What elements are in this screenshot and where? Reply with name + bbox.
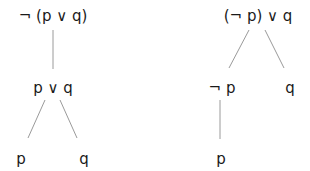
edge-or-to-p — [28, 100, 45, 138]
right-q-leaf: q — [285, 79, 295, 97]
right-root-node: (¬ p) ∨ q — [224, 7, 293, 25]
edge-root-to-q — [265, 30, 284, 68]
right-notp-node: ¬ p — [209, 79, 236, 97]
left-or-node: p ∨ q — [33, 79, 73, 97]
edge-root-to-notp — [229, 30, 249, 68]
edge-or-to-q — [60, 100, 77, 138]
left-q-leaf: q — [79, 150, 89, 168]
left-root-node: ¬ (p ∨ q) — [19, 7, 88, 25]
right-p-leaf: p — [216, 150, 226, 168]
left-p-leaf: p — [16, 150, 26, 168]
